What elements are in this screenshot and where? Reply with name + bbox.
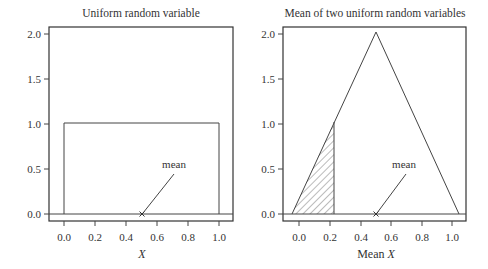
left-x-tick-label: 0.4 (119, 231, 133, 243)
right-y-axis: 2.0 1.5 1.0 0.5 0.0 (261, 28, 283, 220)
left-x-axis-label: X (137, 247, 146, 261)
right-panel: Mean of two uniform random variables 2.0… (261, 7, 466, 261)
left-x-tick-label: 0.6 (150, 231, 164, 243)
left-x-tick-label: 0.8 (181, 231, 195, 243)
left-y-axis: 2.0 1.5 1.0 0.5 0.0 (27, 28, 49, 220)
left-y-tick-label: 0.0 (27, 208, 41, 220)
right-x-axis: 0.0 0.2 0.4 0.6 0.8 1.0 Mean X (292, 221, 459, 261)
right-y-tick-label: 0.5 (261, 163, 275, 175)
figure: Uniform random variable 2.0 1.5 1.0 0.5 … (0, 0, 488, 269)
left-x-tick-label: 0.2 (88, 231, 102, 243)
left-y-tick-label: 0.5 (27, 163, 41, 175)
right-y-tick-label: 1.5 (261, 73, 275, 85)
right-y-tick-label: 1.0 (261, 118, 275, 130)
right-x-tick-label: 0.8 (415, 231, 429, 243)
left-mean-arrow (143, 174, 174, 213)
right-x-tick-label: 0.4 (354, 231, 368, 243)
left-x-tick-label: 1.0 (212, 231, 226, 243)
right-panel-title: Mean of two uniform random variables (284, 7, 466, 19)
uniform-density-curve (64, 123, 219, 214)
left-x-axis: 0.0 0.2 0.4 0.6 0.8 1.0 X (57, 221, 226, 261)
right-mean-arrow (377, 174, 406, 213)
left-panel: Uniform random variable 2.0 1.5 1.0 0.5 … (27, 7, 233, 261)
right-x-tick-label: 0.0 (292, 231, 306, 243)
left-y-tick-label: 2.0 (27, 28, 41, 40)
right-y-tick-label: 2.0 (261, 28, 275, 40)
right-x-axis-label: Mean X (357, 247, 395, 261)
right-mean-label: mean (392, 158, 416, 170)
left-plot-frame (49, 27, 233, 221)
right-x-tick-label: 1.0 (445, 231, 459, 243)
left-y-tick-label: 1.5 (27, 73, 41, 85)
left-mean-annotation: mean (140, 158, 187, 217)
left-panel-title: Uniform random variable (82, 7, 200, 19)
right-x-tick-label: 0.6 (384, 231, 398, 243)
right-y-tick-label: 0.0 (261, 208, 275, 220)
left-y-tick-label: 1.0 (27, 118, 41, 130)
right-mean-annotation: mean (374, 158, 417, 217)
left-mean-label: mean (162, 158, 186, 170)
left-x-tick-label: 0.0 (57, 231, 71, 243)
right-x-tick-label: 0.2 (323, 231, 337, 243)
